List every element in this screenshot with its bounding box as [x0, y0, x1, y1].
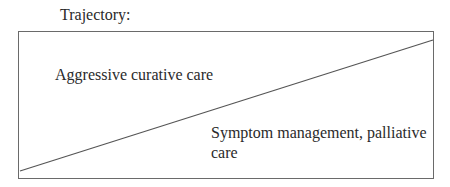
- curative-care-region-label: Aggressive curative care: [55, 65, 213, 85]
- palliative-care-region-label: Symptom management, palliative care: [211, 123, 431, 163]
- diagram-title: Trajectory:: [60, 6, 131, 24]
